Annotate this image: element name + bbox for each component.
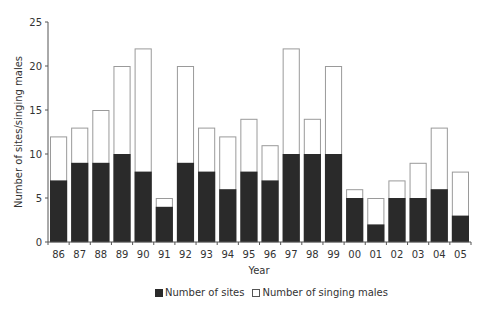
y-tick-label: 5 <box>36 193 42 204</box>
x-tick-label: 98 <box>306 249 319 260</box>
legend-label-singing-males: Number of singing males <box>262 287 388 298</box>
bar-sites <box>283 154 300 242</box>
bar-sites <box>452 216 469 242</box>
y-axis-title: Number of sites/singing males <box>13 56 24 208</box>
x-tick-label: 86 <box>52 249 65 260</box>
bar-sites <box>304 154 321 242</box>
y-tick-label: 25 <box>29 17 42 28</box>
bar-sites <box>135 172 152 242</box>
x-tick-label: 03 <box>412 249 425 260</box>
bar-sites <box>346 198 363 242</box>
legend-swatch-sites <box>155 289 163 297</box>
bar-chart: 0510152025 86878889909192939495969798990… <box>0 0 488 280</box>
x-tick-label: 89 <box>116 249 129 260</box>
x-tick-label: 02 <box>391 249 404 260</box>
bars-group <box>50 49 469 242</box>
bar-sites <box>50 180 67 242</box>
x-tick-label: 87 <box>73 249 86 260</box>
x-tick-label: 99 <box>327 249 340 260</box>
y-tick-label: 0 <box>36 237 42 248</box>
legend: Number of sites Number of singing males <box>155 287 396 298</box>
x-tick-label: 97 <box>285 249 298 260</box>
x-tick-label: 04 <box>433 249 446 260</box>
bar-sites <box>367 224 384 242</box>
x-tick-label: 88 <box>95 249 108 260</box>
x-tick-label: 90 <box>137 249 150 260</box>
x-tick-label: 96 <box>264 249 277 260</box>
legend-swatch-singing-males <box>252 289 260 297</box>
x-tick-label: 95 <box>243 249 256 260</box>
x-tick-label: 92 <box>179 249 192 260</box>
y-tick-label: 10 <box>29 149 42 160</box>
bar-sites <box>177 163 194 242</box>
bar-sites <box>156 207 173 242</box>
y-axis: 0510152025 <box>29 17 48 248</box>
legend-item-singing-males: Number of singing males <box>252 287 388 298</box>
x-tick-label: 93 <box>200 249 213 260</box>
legend-label-sites: Number of sites <box>165 287 244 298</box>
bar-sites <box>262 180 279 242</box>
bar-sites <box>71 163 88 242</box>
x-tick-label: 01 <box>369 249 382 260</box>
bar-sites <box>198 172 215 242</box>
y-tick-label: 20 <box>29 61 42 72</box>
bar-sites <box>240 172 257 242</box>
x-tick-label: 94 <box>221 249 234 260</box>
bar-sites <box>388 198 405 242</box>
x-tick-label: 05 <box>454 249 467 260</box>
bar-sites <box>92 163 109 242</box>
bar-sites <box>325 154 342 242</box>
legend-item-sites: Number of sites <box>155 287 244 298</box>
x-axis: 8687888990919293949596979899000102030405 <box>48 242 471 260</box>
x-tick-label: 91 <box>158 249 171 260</box>
x-tick-label: 00 <box>348 249 361 260</box>
bar-sites <box>410 198 427 242</box>
bar-sites <box>113 154 130 242</box>
x-axis-title: Year <box>247 265 270 276</box>
y-tick-label: 15 <box>29 105 42 116</box>
bar-sites <box>431 189 448 242</box>
bar-sites <box>219 189 236 242</box>
